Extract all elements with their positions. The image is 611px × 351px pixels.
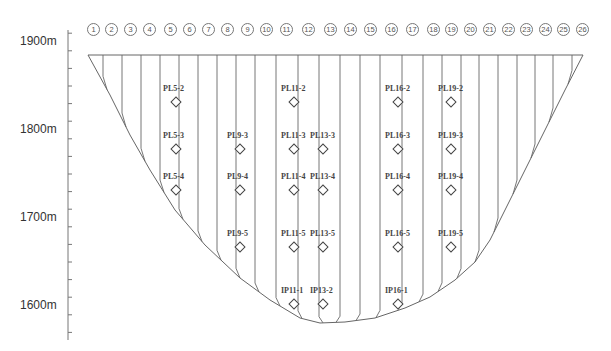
joint-line	[298, 55, 302, 319]
joint-number-badge: 22	[502, 23, 515, 36]
joint-number-badge: 9	[241, 23, 254, 36]
joint-number-badge: 1	[87, 23, 100, 36]
joint-line	[475, 55, 479, 262]
instrument-label: PL5-3	[163, 131, 184, 140]
joint-line	[122, 55, 126, 127]
joint-number-badge: 17	[406, 23, 419, 36]
y-axis-label: 1900m	[20, 34, 57, 48]
joint-number-badge: 7	[202, 23, 215, 36]
instrument-label: PL11-2	[281, 84, 305, 93]
joint-number-badge: 5	[164, 23, 177, 36]
dam-outline-svg	[0, 0, 611, 351]
joint-number-badge: 23	[520, 23, 533, 36]
joint-number-badge: 12	[302, 23, 315, 36]
instrument-label: PL11-4	[281, 172, 305, 181]
instrument-label: IP13-2	[310, 286, 333, 295]
instrument-label: PL11-5	[281, 229, 305, 238]
instrument-label: PL16-4	[385, 172, 410, 181]
instrument-label: PL9-4	[227, 172, 248, 181]
joint-line	[198, 55, 202, 242]
instrument-label: PL19-2	[438, 84, 463, 93]
joint-line	[276, 55, 280, 306]
instrument-label: PL5-4	[163, 172, 184, 181]
joint-number-badge: 25	[557, 23, 570, 36]
instrument-label: IP11-1	[281, 286, 303, 295]
instrument-label: PL13-3	[310, 131, 335, 140]
joint-line	[376, 55, 380, 318]
dam-section-diagram: 1900m1800m1700m1600m12345678910111213141…	[0, 0, 611, 351]
instrument-label: IP16-1	[385, 286, 408, 295]
joint-line	[336, 55, 340, 322]
instrument-label: PL19-5	[438, 229, 463, 238]
joint-line	[531, 55, 535, 158]
instrument-label: PL11-3	[281, 131, 305, 140]
y-axis-label: 1600m	[20, 298, 57, 312]
joint-number-badge: 2	[105, 23, 118, 36]
joint-line	[549, 55, 553, 122]
joint-line	[255, 55, 259, 292]
joint-number-badge: 19	[445, 23, 458, 36]
instrument-label: PL16-2	[385, 84, 410, 93]
dam-outline	[88, 55, 583, 323]
instrument-label: PL5-2	[163, 84, 184, 93]
joint-number-badge: 4	[143, 23, 156, 36]
instrument-label: PL9-3	[227, 131, 248, 140]
joint-number-badge: 21	[483, 23, 496, 36]
joint-number-badge: 13	[324, 23, 337, 36]
joint-line	[356, 55, 360, 321]
joint-number-badge: 14	[344, 23, 357, 36]
joint-line	[419, 55, 423, 302]
instrument-label: PL13-5	[310, 229, 335, 238]
joint-number-badge: 10	[260, 23, 273, 36]
instrument-label: PL16-3	[385, 131, 410, 140]
instrument-label: PL13-4	[310, 172, 335, 181]
joint-number-badge: 24	[539, 23, 552, 36]
joint-number-badge: 26	[576, 23, 589, 36]
joint-number-badge: 3	[124, 23, 137, 36]
joint-line	[141, 55, 145, 161]
joint-line	[494, 55, 498, 232]
joint-number-badge: 11	[280, 23, 293, 36]
joint-number-badge: 15	[364, 23, 377, 36]
instrument-label: PL19-4	[438, 172, 463, 181]
joint-number-badge: 8	[221, 23, 234, 36]
joint-line	[513, 55, 517, 194]
joint-number-badge: 6	[183, 23, 196, 36]
joint-line	[398, 55, 402, 310]
instrument-label: PL9-5	[227, 229, 248, 238]
instrument-label: PL19-3	[438, 131, 463, 140]
joint-line	[217, 55, 221, 260]
y-axis-label: 1700m	[20, 210, 57, 224]
joint-number-badge: 20	[464, 23, 477, 36]
y-axis-label: 1800m	[20, 122, 57, 136]
joint-number-badge: 18	[427, 23, 440, 36]
joint-number-badge: 16	[385, 23, 398, 36]
instrument-label: PL16-5	[385, 229, 410, 238]
